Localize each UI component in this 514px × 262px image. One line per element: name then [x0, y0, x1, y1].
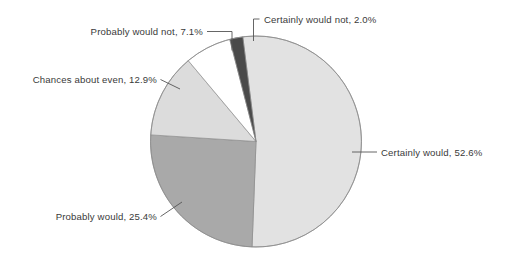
label-probably-would: Probably would, 25.4%	[56, 211, 158, 222]
pie-chart-svg: Certainly would, 52.6%Probably would, 25…	[0, 0, 514, 262]
pie-chart-figure: Certainly would, 52.6%Probably would, 25…	[0, 0, 514, 262]
pie-slices-group: Certainly would, 52.6%Probably would, 25…	[151, 36, 362, 247]
label-certainly-would: Certainly would, 52.6%	[381, 147, 483, 158]
label-chances-about-even: Chances about even, 12.9%	[33, 74, 158, 85]
label-probably-would-not: Probably would not, 7.1%	[91, 26, 204, 37]
label-certainly-would-not: Certainly would not, 2.0%	[264, 14, 377, 25]
